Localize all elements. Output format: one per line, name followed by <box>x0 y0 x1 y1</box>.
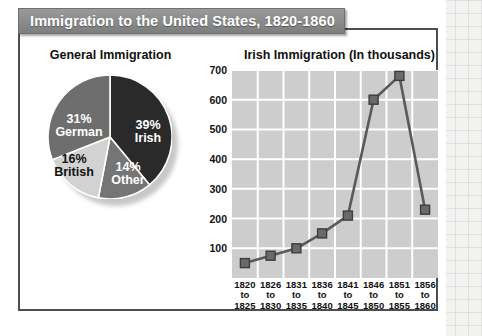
pie-chart-title: General Immigration <box>18 48 203 62</box>
general-immigration-pie-chart: 39% Irish 31% German 16% British 14% Oth… <box>48 75 172 199</box>
x-axis-tick-label: 1826to1830 <box>260 280 281 311</box>
line-series-layer <box>232 70 438 278</box>
x-axis-tick-label: 1856to1860 <box>415 280 436 311</box>
x-axis-tick-label: 1846to1850 <box>363 280 384 311</box>
x-axis-tick-line: 1860 <box>415 301 436 311</box>
data-point-marker <box>395 71 404 80</box>
data-point-marker <box>240 259 249 268</box>
y-axis-tick-label: 700 <box>209 64 227 76</box>
x-axis-tick-label: 1841to1845 <box>337 280 358 311</box>
y-axis-tick-label: 300 <box>209 183 227 195</box>
irish-immigration-line-chart: 100200300400500600700 1820to18251826to18… <box>232 70 438 278</box>
x-axis-tick-line: 1855 <box>389 301 410 311</box>
x-axis-tick-line: 1830 <box>260 301 281 311</box>
y-axis-tick-label: 100 <box>209 242 227 254</box>
y-axis-tick-label: 400 <box>209 153 227 165</box>
data-point-marker <box>421 205 430 214</box>
data-point-marker <box>343 211 352 220</box>
x-axis-tick-line: 1840 <box>312 301 333 311</box>
x-axis-tick-label: 1831to1835 <box>286 280 307 311</box>
x-axis-tick-line: 1825 <box>234 301 255 311</box>
x-axis-tick-label: 1836to1840 <box>312 280 333 311</box>
x-axis-tick-line: 1835 <box>286 301 307 311</box>
x-axis-tick-line: 1850 <box>363 301 384 311</box>
pie-slices <box>48 75 172 199</box>
x-axis-tick-label: 1851to1855 <box>389 280 410 311</box>
data-point-marker <box>318 229 327 238</box>
y-axis-tick-label: 600 <box>209 94 227 106</box>
data-point-marker <box>292 244 301 253</box>
y-axis-tick-label: 500 <box>209 123 227 135</box>
immigration-infographic: Immigration to the United States, 1820-1… <box>0 0 482 336</box>
y-axis-tick-label: 200 <box>209 213 227 225</box>
title-banner: Immigration to the United States, 1820-1… <box>18 8 345 34</box>
line-chart-title: Irish Immigration (In thousands) <box>232 48 447 62</box>
banner-title: Immigration to the United States, 1820-1… <box>30 13 335 29</box>
x-axis-tick-line: 1845 <box>337 301 358 311</box>
data-point-marker <box>369 95 378 104</box>
data-point-marker <box>266 251 275 260</box>
x-axis-tick-label: 1820to1825 <box>234 280 255 311</box>
